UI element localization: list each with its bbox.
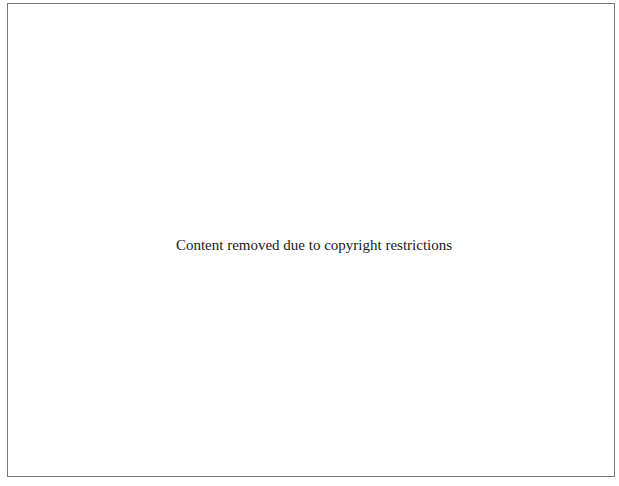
content-frame: Content removed due to copyright restric… xyxy=(7,3,615,477)
copyright-notice: Content removed due to copyright restric… xyxy=(8,236,616,254)
